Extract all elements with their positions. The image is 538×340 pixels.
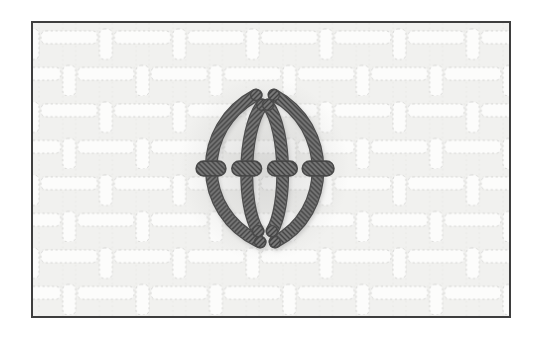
tie-bar-1 [196,161,226,176]
tip-knob-texture [255,236,266,247]
illustration-canvas [0,0,538,340]
tip-knob-texture [269,236,280,247]
tip-knob-2 [262,99,273,110]
fabric-frame [31,21,511,318]
tie-bar-3 [268,161,298,176]
tip-knob-5 [251,89,262,100]
stitch-diagram [33,23,509,316]
tie-bar-4 [302,161,334,176]
tie-bar-2 [232,161,262,176]
tip-knob-texture [266,226,277,237]
tip-knob-texture [253,226,264,237]
tip-knob-texture [262,99,273,110]
tip-knob-6 [268,89,279,100]
tip-knob-8 [269,236,280,247]
tip-knob-texture [251,89,262,100]
tip-knob-3 [253,226,264,237]
tip-knob-7 [255,236,266,247]
tie-bar-texture [302,161,334,176]
tip-knob-4 [266,226,277,237]
tip-knob-texture [268,89,279,100]
tie-bar-texture [268,161,298,176]
tie-bar-texture [232,161,262,176]
tie-bar-texture [196,161,226,176]
